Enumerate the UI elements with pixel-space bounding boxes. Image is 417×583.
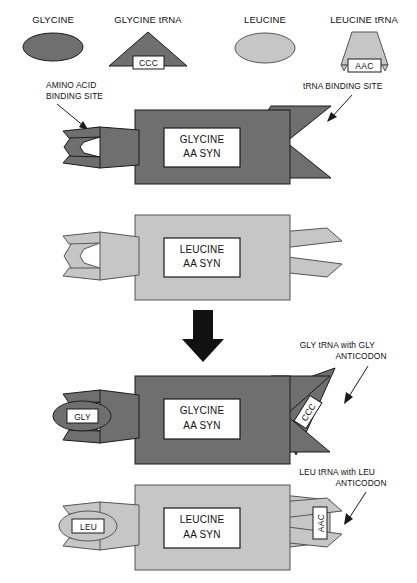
leucine-trna-foot-right	[382, 65, 388, 71]
flow-arrow	[182, 310, 224, 362]
leucine-synthetase-label-bound-line1: LEUCINE	[180, 514, 225, 525]
legend-item-glycine: GLYCINE	[23, 14, 83, 61]
glycine-binding-site-lower-prong	[63, 156, 100, 168]
leu-trna-anticodon-label-line1: LEU tRNA with LEU	[299, 467, 375, 477]
trna-binding-site-leader-line	[331, 95, 352, 118]
leucine-synthetase-label-line2: AA SYN	[183, 258, 220, 269]
leu-trna-anticodon-label-line2: ANTICODON	[335, 478, 386, 488]
legend-label-leucine-trna: LEUCINE tRNA	[330, 14, 398, 25]
leucine-molecule-icon	[235, 33, 295, 63]
leucine-binding-site-upper-prong	[63, 232, 100, 244]
glycine-binding-site-lower-prong-bound	[63, 430, 100, 443]
legend-item-leucine-trna: LEUCINE tRNA AAC	[330, 14, 398, 72]
amino-acid-binding-site-leader-line	[57, 104, 85, 127]
amino-acid-binding-site-label-line1: AMINO ACID	[46, 80, 96, 90]
annotation-amino-acid-binding-site: AMINO ACID BINDING SITE	[46, 80, 103, 131]
panel-glycine-synthetase-bound: GLY CCC GLYCINE AA SYN	[53, 368, 335, 464]
bound-glycine-label: GLY	[74, 412, 91, 422]
leucine-synthetase-label-bound-line2: AA SYN	[183, 529, 220, 540]
legend-item-leucine: LEUCINE	[235, 14, 295, 63]
legend-label-glycine-trna: GLYCINE tRNA	[114, 14, 182, 25]
panel-glycine-synthetase-empty: GLYCINE AA SYN	[63, 106, 331, 184]
downward-process-arrow-icon	[182, 310, 224, 362]
glycine-anticodon-label: CCC	[139, 58, 158, 68]
legend-label-leucine: LEUCINE	[244, 14, 286, 25]
glycine-synthetase-label-line2: AA SYN	[183, 148, 220, 159]
leu-trna-anticodon-leader-line	[348, 492, 366, 520]
leucine-docked-anticodon-label: AAC	[316, 514, 326, 532]
legend-label-glycine: GLYCINE	[32, 14, 74, 25]
legend-item-glycine-trna: GLYCINE tRNA CCC	[109, 14, 187, 69]
glycine-synthetase-label-line1: GLYCINE	[180, 134, 225, 145]
glycine-synthetase-label-bound-line1: GLYCINE	[180, 405, 225, 416]
gly-trna-anticodon-label-line2: ANTICODON	[335, 351, 386, 361]
panel-leucine-synthetase-bound: LEU AAC LEUCINE AA SYN	[59, 485, 342, 570]
leucine-anticodon-label: AAC	[355, 61, 373, 71]
trna-binding-site-label: tRNA BINDING SITE	[303, 81, 383, 91]
gly-trna-anticodon-arrowhead	[344, 392, 353, 404]
glycine-synthetase-label-bound-line2: AA SYN	[183, 420, 220, 431]
glycine-binding-site-upper-prong	[63, 127, 100, 138]
leucine-synthetase-label-line1: LEUCINE	[180, 244, 225, 255]
leucine-trna-foot-left	[341, 65, 347, 71]
gly-trna-anticodon-label-line1: GLY tRNA with GLY	[300, 340, 376, 350]
legend-row: GLYCINE GLYCINE tRNA CCC LEUCINE LEUCINE…	[23, 14, 398, 72]
amino-acid-binding-site-label-line2: BINDING SITE	[46, 91, 103, 101]
panel-leucine-synthetase-empty: LEUCINE AA SYN	[63, 215, 342, 300]
leucine-binding-site-lower-prong	[63, 268, 100, 280]
gly-trna-anticodon-leader-line	[348, 366, 368, 398]
biology-diagram: GLYCINE GLYCINE tRNA CCC LEUCINE LEUCINE…	[0, 0, 417, 583]
glycine-molecule-icon	[23, 33, 83, 61]
bound-leucine-label: LEU	[80, 522, 97, 532]
